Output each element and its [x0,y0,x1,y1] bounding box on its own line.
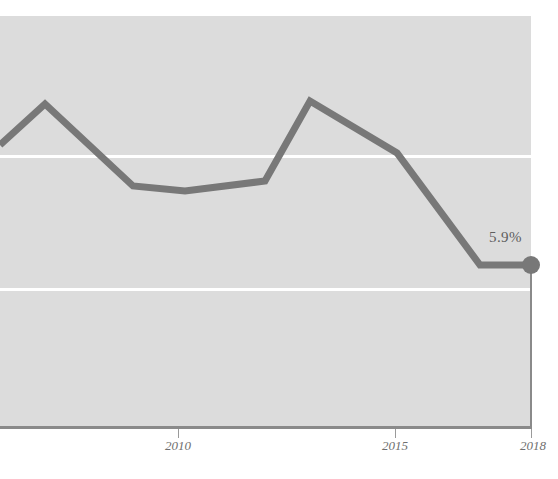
x-axis-line [0,426,532,429]
end-point-marker [522,256,540,274]
end-value-label: 5.9% [489,229,522,246]
line-chart-figure: 2010 2015 2018 5.9% [0,0,558,479]
x-tick-2018 [531,429,532,438]
x-tick-2015 [395,429,396,438]
x-tick-label-2018: 2018 [520,438,546,454]
x-tick-2010 [178,429,179,438]
plot-series-layer [0,0,558,479]
x-tick-label-2015: 2015 [382,438,408,454]
series-line-rate [0,101,531,265]
x-tick-label-2010: 2010 [165,438,191,454]
